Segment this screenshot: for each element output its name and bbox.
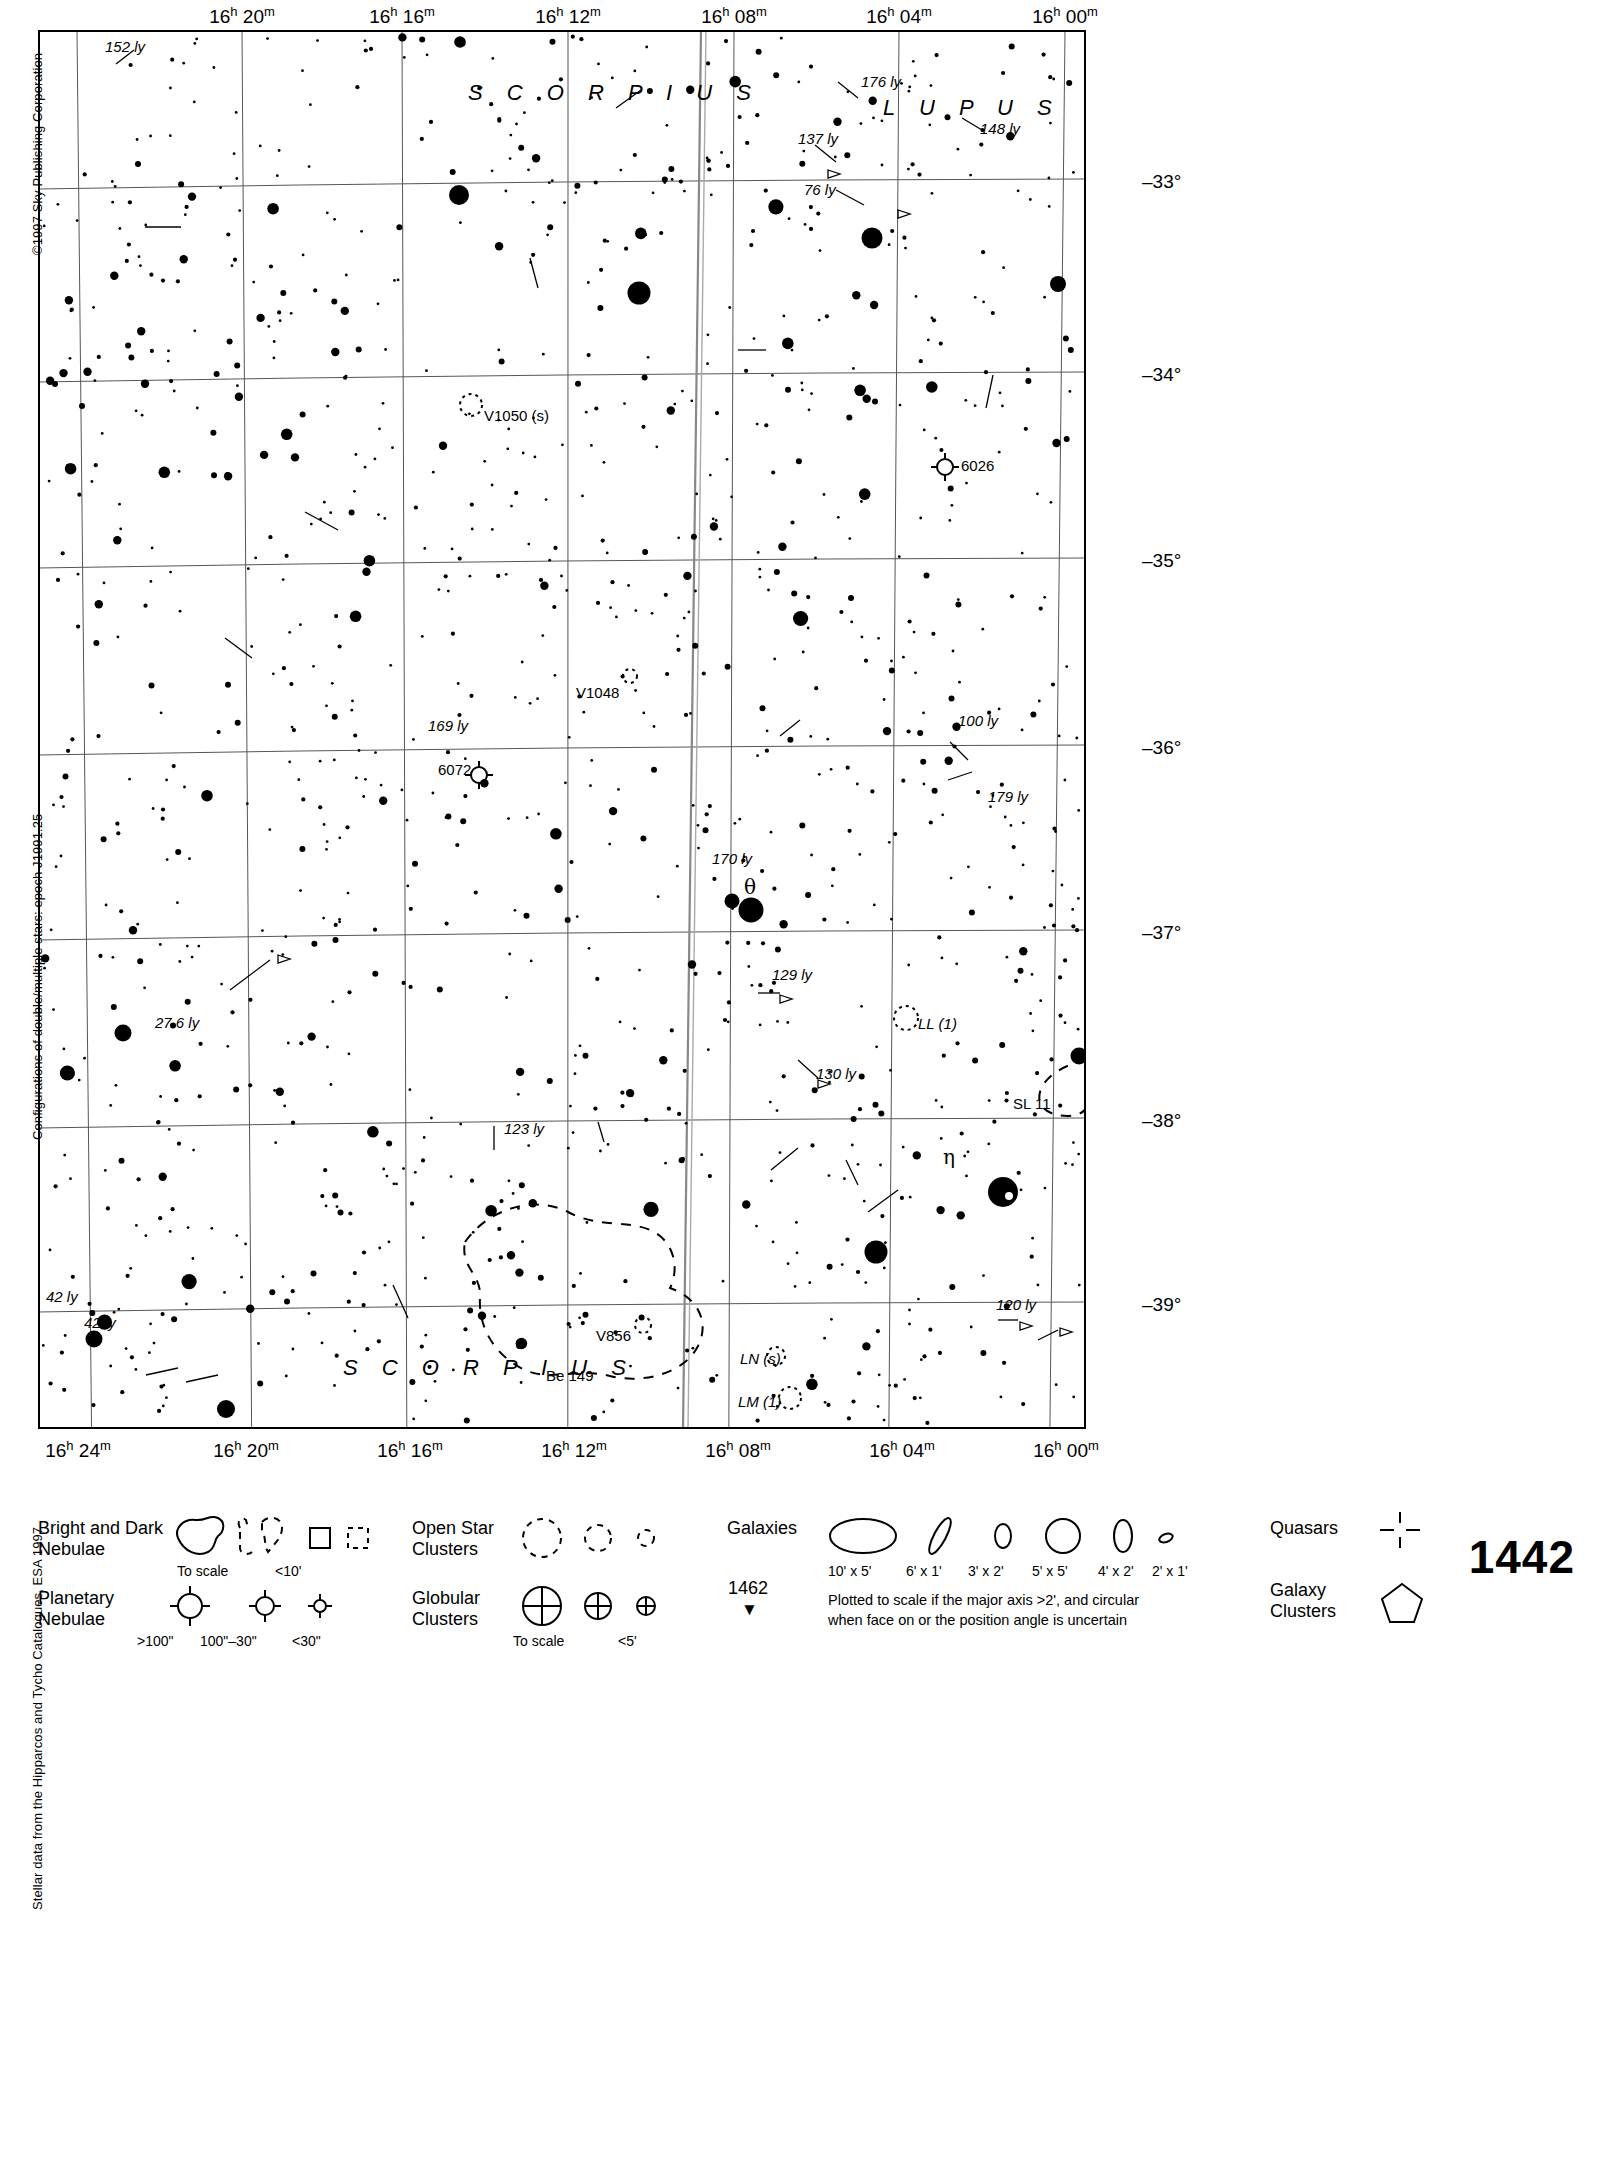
ra-tick-bottom-1: 16h 20m	[213, 1438, 279, 1462]
chart-label---13: θ	[744, 875, 756, 899]
ra-tick-bottom-4: 16h 08m	[705, 1438, 771, 1462]
chart-label-lm-1--27: LM (1)	[738, 1393, 781, 1410]
next-chart-number: 1462	[728, 1578, 768, 1599]
legend-galaxies-title: Galaxies	[727, 1518, 797, 1539]
bright-dark-nebulae-icon	[170, 1512, 370, 1564]
chart-label-176-ly-1: 176 ly	[861, 73, 901, 90]
galaxy-size-label-5: 2' x 1'	[1152, 1563, 1188, 1579]
legend-pn-gt100-sub: >100"	[137, 1633, 174, 1649]
chart-label-120-ly-23: 120 ly	[996, 1296, 1036, 1313]
chart-plot-area	[38, 30, 1086, 1429]
legend-nebulae-lt10-sub: <10'	[275, 1563, 301, 1579]
chart-label-152-ly-0: 152 ly	[105, 38, 145, 55]
legend-galaxy-clusters-title: Galaxy Clusters	[1270, 1580, 1336, 1622]
chart-label-76-ly-4: 76 ly	[804, 181, 836, 198]
chart-label-27-6-ly-15: 27.6 ly	[155, 1014, 199, 1031]
legend-galaxies-note: Plotted to scale if the major axis >2', …	[828, 1590, 1139, 1630]
chart-label-169-ly-8: 169 ly	[428, 717, 468, 734]
galaxies-icon	[828, 1508, 1168, 1564]
legend-globular-clusters-title: Globular Clusters	[412, 1588, 480, 1630]
legend-globular-to-scale-sub: To scale	[513, 1633, 564, 1649]
dec-tick-4: –37°	[1142, 922, 1181, 944]
chart-label-42-ly-22: 42 ly	[84, 1314, 116, 1331]
constellation-name-1: L U P U S	[883, 95, 1061, 121]
legend-globular-lt5-sub: <5'	[618, 1633, 637, 1649]
legend-pn-lt30-sub: <30"	[292, 1633, 321, 1649]
chart-label-42-ly-21: 42 ly	[46, 1288, 78, 1305]
ra-tick-top-4: 16h 04m	[866, 4, 932, 28]
legend-planetary-nebulae-title: Planetary Nebulae	[38, 1588, 114, 1630]
chart-label-100-ly-9: 100 ly	[958, 712, 998, 729]
chart-label-123-ly-19: 123 ly	[504, 1120, 544, 1137]
chart-legend: Bright and Dark Nebulae To scale <10' Pl…	[0, 1470, 1605, 2177]
galaxy-cluster-icon	[1378, 1580, 1428, 1628]
legend-bright-dark-nebulae-title: Bright and Dark Nebulae	[38, 1518, 163, 1560]
ra-tick-bottom-0: 16h 24m	[45, 1438, 111, 1462]
chart-label-170-ly-12: 170 ly	[712, 850, 752, 867]
next-chart-arrow: ▼	[741, 1600, 758, 1620]
ra-tick-bottom-6: 16h 00m	[1033, 1438, 1099, 1462]
chart-label-148-ly-2: 148 ly	[980, 120, 1020, 137]
legend-pn-100-30-sub: 100"–30"	[200, 1633, 257, 1649]
galaxy-size-label-0: 10' x 5'	[828, 1563, 871, 1579]
galaxy-size-label-1: 6' x 1'	[906, 1563, 942, 1579]
star-chart: 16h 20m16h 16m16h 12m16h 08m16h 04m16h 0…	[38, 30, 1086, 1429]
legend-open-clusters-title: Open Star Clusters	[412, 1518, 494, 1560]
chart-label-6072-10: 6072	[438, 761, 471, 778]
chart-number: 1442	[1469, 1530, 1575, 1584]
open-star-clusters-icon	[520, 1512, 670, 1564]
dec-tick-3: –36°	[1142, 737, 1181, 759]
ra-tick-bottom-5: 16h 04m	[869, 1438, 935, 1462]
chart-label-v1050-s--5: V1050 (s)	[484, 407, 549, 424]
chart-label-v856-24: V856	[596, 1327, 631, 1344]
ra-tick-bottom-2: 16h 16m	[377, 1438, 443, 1462]
chart-label-129-ly-14: 129 ly	[772, 966, 812, 983]
galaxy-size-label-3: 5' x 5'	[1032, 1563, 1068, 1579]
legend-quasars-title: Quasars	[1270, 1518, 1338, 1539]
ra-tick-top-3: 16h 08m	[701, 4, 767, 28]
chart-label-130-ly-17: 130 ly	[816, 1065, 856, 1082]
chart-label-ln-s--25: LN (s)	[740, 1350, 781, 1367]
galaxy-size-label-2: 3' x 2'	[968, 1563, 1004, 1579]
constellation-name-0: S C O R P I U S	[468, 80, 760, 106]
legend-nebulae-to-scale-sub: To scale	[177, 1563, 228, 1579]
dec-tick-2: –35°	[1142, 550, 1181, 572]
ra-tick-top-5: 16h 00m	[1032, 4, 1098, 28]
dec-tick-1: –34°	[1142, 364, 1181, 386]
ra-tick-top-0: 16h 20m	[209, 4, 275, 28]
star-field	[38, 30, 1086, 1429]
chart-label-179-ly-11: 179 ly	[988, 788, 1028, 805]
chart-label-137-ly-3: 137 ly	[798, 130, 838, 147]
chart-label---20: η	[943, 1145, 955, 1169]
chart-label-v1048-7: V1048	[576, 684, 619, 701]
dec-tick-6: –39°	[1142, 1294, 1181, 1316]
ra-tick-bottom-3: 16h 12m	[541, 1438, 607, 1462]
dec-tick-0: –33°	[1142, 171, 1181, 193]
ra-tick-top-1: 16h 16m	[369, 4, 435, 28]
chart-label-be-149-26: Be 149	[546, 1367, 594, 1384]
planetary-nebulae-icon	[155, 1582, 335, 1630]
quasar-icon	[1378, 1510, 1422, 1550]
ra-tick-top-2: 16h 12m	[535, 4, 601, 28]
dec-tick-5: –38°	[1142, 1110, 1181, 1132]
globular-clusters-icon	[520, 1582, 670, 1630]
chart-label-sl-11-18: SL 11	[1013, 1095, 1051, 1112]
galaxy-size-label-4: 4' x 2'	[1098, 1563, 1134, 1579]
chart-label-ll-1--16: LL (1)	[918, 1015, 957, 1032]
chart-label-6026-6: 6026	[961, 457, 994, 474]
